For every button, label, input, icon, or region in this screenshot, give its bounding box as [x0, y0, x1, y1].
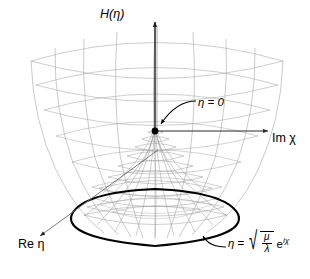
eta-zero-leader [161, 101, 196, 124]
annotation-eta-zero-text: η = 0 [198, 96, 224, 108]
axis-label-real-eta-text: Re η [18, 237, 44, 251]
higgs-potential-figure: H(η) Im χ Re η η = 0 η = √ μ λ eiχ [0, 0, 310, 279]
annotation-minimum-ring-equation: η = √ μ λ eiχ [228, 232, 289, 254]
fraction-denominator: λ [262, 244, 271, 255]
fraction-numerator: μ [262, 232, 271, 244]
equation-eta-symbol: η [228, 237, 234, 249]
annotation-eta-zero: η = 0 [198, 97, 224, 109]
equation-fraction: μ λ [260, 231, 273, 254]
axis-label-imaginary-chi-text: Im χ [272, 131, 296, 145]
equation-equals-sign: = [237, 237, 244, 249]
origin-dot-marker [152, 128, 159, 135]
axis-label-vertical: H(η) [100, 8, 124, 21]
radical-sign-wrap: √ [248, 233, 260, 253]
radical-sign: √ [249, 228, 257, 253]
axis-label-imaginary-chi: Im χ [272, 132, 296, 145]
axis-label-vertical-text: H(η) [100, 7, 124, 21]
equation-square-root: √ μ λ [248, 232, 273, 254]
exponential-exponent: iχ [283, 236, 289, 245]
equation-exponential: eiχ [277, 236, 290, 250]
axis-vertical-line [155, 22, 157, 131]
axis-label-real-eta: Re η [18, 238, 44, 251]
